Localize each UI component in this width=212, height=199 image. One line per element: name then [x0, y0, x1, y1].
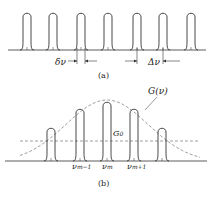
longitudinal-mode-peak: [46, 13, 60, 50]
longitudinal-mode-peak: [184, 13, 198, 50]
arrowhead: [85, 60, 88, 63]
threshold-gain-label: G0: [113, 130, 123, 138]
panel-a-caption: (a): [98, 72, 109, 80]
arrowhead: [134, 60, 137, 63]
longitudinal-mode-peak: [20, 13, 34, 50]
oscillating-mode-peak: [127, 109, 141, 161]
longitudinal-mode-peak: [130, 13, 144, 50]
oscillating-mode-peak: [100, 102, 114, 161]
longitudinal-mode-peak: [156, 13, 170, 50]
delta-nu-large-label: Δν: [148, 58, 160, 67]
mode-label-m-plus-1: νm+1: [127, 163, 146, 171]
laser-mode-diagram: δν Δν (a) G(ν) G0 νm−1 νm νm+1 (b): [0, 0, 212, 199]
delta-nu-small-label: δν: [55, 58, 66, 67]
longitudinal-mode-peak: [74, 13, 88, 50]
oscillating-mode-peak: [155, 128, 169, 161]
mode-label-m: νm: [102, 163, 113, 171]
arrowhead: [163, 60, 166, 63]
panel-b-caption: (b): [98, 180, 109, 188]
arrowhead: [74, 60, 77, 63]
gain-curve-label: G(ν): [148, 87, 168, 96]
mode-label-m-minus-1: νm−1: [72, 163, 91, 171]
longitudinal-mode-peak: [101, 13, 115, 50]
gain-label-leader: [145, 97, 157, 110]
oscillating-mode-peak: [73, 109, 87, 161]
